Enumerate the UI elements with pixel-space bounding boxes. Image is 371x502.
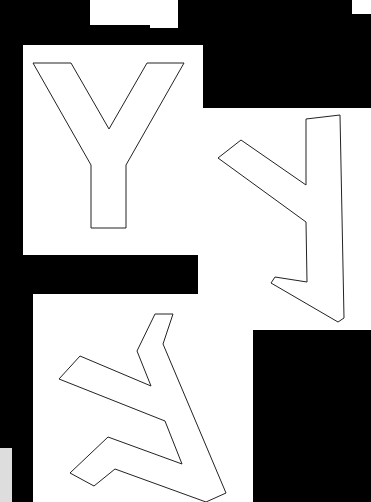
letter-outlines — [0, 0, 371, 502]
letter-y-tilted-outline — [59, 314, 226, 502]
letter-y-rotated-outline — [218, 115, 344, 322]
letter-y-upright-outline — [33, 63, 184, 228]
